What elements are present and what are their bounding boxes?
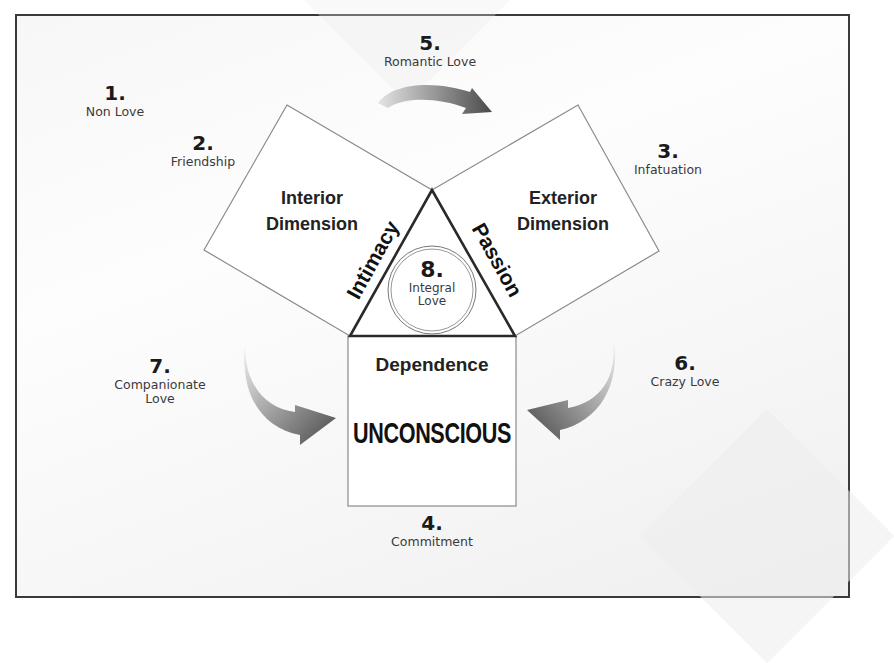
love-type-name: Infatuation [618,163,718,177]
love-type-1-label: 1. Non Love [80,82,150,119]
love-type-number: 6. [630,352,740,375]
companionate-love-arrow-icon [244,345,336,445]
love-type-number: 1. [80,82,150,105]
integral-love-number: 8. [392,257,472,282]
exterior-label-line1: Exterior [529,188,597,208]
love-type-3-label: 3. Infatuation [618,140,718,177]
love-type-6-label: 6. Crazy Love [630,352,740,389]
love-type-number: 5. [360,32,500,55]
interior-label-line2: Dimension [266,214,358,234]
love-type-number: 7. [100,355,220,378]
exterior-label-line2: Dimension [517,214,609,234]
integral-love-label: 8. Integral Love [392,257,472,308]
love-type-name: Romantic Love [360,55,500,69]
love-type-number: 4. [372,512,492,535]
love-type-2-label: 2. Friendship [158,132,248,169]
crazy-love-arrow-icon [527,338,615,440]
exterior-dimension-label: Exterior Dimension [488,185,638,237]
love-type-5-label: 5. Romantic Love [360,32,500,69]
love-type-number: 3. [618,140,718,163]
love-type-name: Commitment [372,535,492,549]
dependence-label: Dependence [348,354,516,376]
love-type-name: Love [100,392,220,406]
interior-label-line1: Interior [281,188,343,208]
interior-dimension-label: Interior Dimension [242,185,382,237]
love-type-name: Crazy Love [630,375,740,389]
love-type-name: Companionate [100,378,220,392]
unconscious-label: UNCONSCIOUS [350,416,514,450]
love-type-7-label: 7. Companionate Love [100,355,220,407]
love-type-name: Friendship [158,155,248,169]
integral-love-text-line2: Love [392,295,472,308]
love-type-number: 2. [158,132,248,155]
romantic-love-arrow-icon [378,85,492,114]
love-type-4-label: 4. Commitment [372,512,492,549]
love-type-name: Non Love [80,105,150,119]
